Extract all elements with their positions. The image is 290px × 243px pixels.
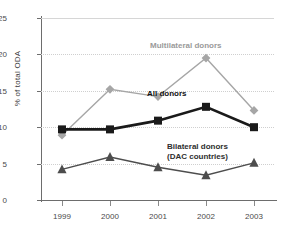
line-chart: % of total ODA 25 20 15 10 5 0 1999 2000…: [0, 0, 290, 243]
data-point: [154, 117, 162, 125]
series-label-bilateral: Bilateral donors (DAC countries): [167, 142, 228, 162]
data-point: [249, 158, 258, 167]
series-label-multilateral: Multilateral donors: [150, 41, 222, 51]
data-point: [250, 123, 258, 131]
data-point: [106, 125, 114, 133]
series-label-bilateral-line1: Bilateral donors: [167, 142, 228, 152]
data-point: [202, 103, 210, 111]
series-label-bilateral-line2: (DAC countries): [167, 152, 228, 162]
markers-bilateral: [57, 152, 258, 179]
data-point: [58, 125, 66, 133]
series-label-all-donors: All donors: [147, 89, 187, 99]
data-point: [105, 152, 114, 161]
series-layer: [0, 0, 290, 243]
